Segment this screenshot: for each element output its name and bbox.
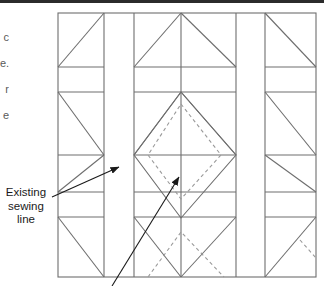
lower-dashed-chevron [148,232,224,277]
existing-sewing-line-callout: Existing sewing line [0,186,52,227]
quilt-block-diagram [0,0,324,286]
diagram-page: c e. r e [0,0,324,286]
callout-arrows [52,167,179,286]
diag-r3-1 [265,155,316,192]
callout-line-1: Existing [0,186,52,200]
diag-bm-2 [181,217,236,277]
horizontal-grid-lines [58,67,316,217]
diag-tm-2 [181,13,236,67]
arrow-to-sewing-line-lower [112,177,179,286]
diag-tm-1 [134,13,181,67]
diag-l3-1 [58,155,104,192]
diagonal-seams [58,13,316,277]
diag-bm-1 [134,217,181,277]
diag-tr-1 [265,13,316,67]
diag-l2-1 [58,92,104,155]
vertical-grid-lines [104,13,265,277]
diag-tl-1 [58,13,104,67]
diag-r2-1 [265,92,316,155]
lower-right-dashed-fragment [300,240,316,258]
diag-br-1 [265,217,316,277]
callout-line-3: line [0,213,52,227]
diag-bl-1 [58,217,104,277]
callout-line-2: sewing [0,200,52,214]
